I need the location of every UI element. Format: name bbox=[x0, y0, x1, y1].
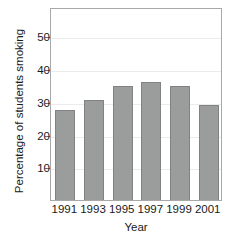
x-axis-title: Year bbox=[50, 221, 222, 233]
bar-1993 bbox=[84, 100, 104, 200]
gridline-50 bbox=[51, 38, 221, 39]
gridline-30 bbox=[51, 104, 221, 105]
bar-1999 bbox=[170, 86, 190, 201]
y-tick-label-30: 30 bbox=[22, 96, 50, 110]
bar-1997 bbox=[141, 82, 161, 200]
gridline-40 bbox=[51, 71, 221, 72]
y-tick-label-40: 40 bbox=[22, 63, 50, 77]
y-tick-label-20: 20 bbox=[22, 129, 50, 143]
y-axis-title: Percentage of students smoking bbox=[13, 16, 29, 206]
gridline-20 bbox=[51, 137, 221, 138]
bar-chart: Percentage of students smoking 102030405… bbox=[0, 0, 227, 245]
plot-area bbox=[50, 8, 222, 201]
y-tick-label-10: 10 bbox=[22, 161, 50, 175]
bar-1995 bbox=[113, 86, 133, 201]
bar-2001 bbox=[199, 105, 219, 200]
y-tick-label-50: 50 bbox=[22, 30, 50, 44]
gridline-10 bbox=[51, 169, 221, 170]
x-tick-label-2001: 2001 bbox=[188, 203, 227, 215]
bar-1991 bbox=[55, 110, 75, 200]
